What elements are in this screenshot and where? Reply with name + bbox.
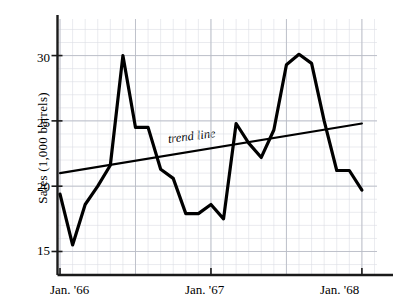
plot-area [0,0,405,303]
tick-marks [52,56,362,275]
sales-chart-figure: Sales (1,000 barrels) 30 25 20 15 Jan. '… [0,0,405,303]
